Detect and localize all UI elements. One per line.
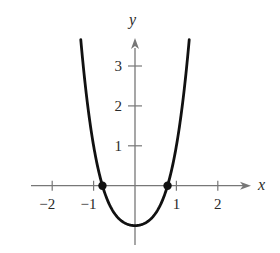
x-intercept-point (98, 182, 106, 190)
x-intercept-point (163, 182, 171, 190)
x-axis-label: x (257, 176, 265, 193)
x-tick-label: −1 (81, 196, 97, 212)
x-tick-label: 2 (214, 196, 222, 212)
y-axis-arrow-icon (131, 38, 139, 49)
y-axis (131, 38, 139, 245)
y-ticks: 123 (115, 58, 143, 154)
y-tick-label: 1 (115, 138, 123, 154)
function-graph: −2−112 123 x y (0, 0, 280, 253)
y-axis-label: y (127, 11, 137, 29)
x-tick-label: −2 (39, 196, 55, 212)
y-tick-label: 3 (115, 58, 123, 74)
y-tick-label: 2 (115, 98, 123, 114)
x-tick-label: 1 (173, 196, 181, 212)
